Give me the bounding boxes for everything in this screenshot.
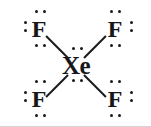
electron-dot-f-bottom-left-below-1 (35, 114, 38, 117)
electron-dot-f-top-left-left-2 (24, 29, 27, 32)
electron-dot-f-bottom-right-above-1 (110, 80, 113, 83)
lewis-structure-figure: F F Xe F F (0, 0, 151, 127)
electron-dot-f-bottom-left-above-1 (35, 80, 38, 83)
atom-label-fluorine-bottom-right: F (105, 87, 125, 111)
electron-dot-f-bottom-right-below-2 (118, 114, 121, 117)
atom-label-fluorine-bottom-left: F (29, 87, 49, 111)
electron-dot-f-top-left-above-2 (43, 10, 46, 13)
electron-dot-xe-center-below-1 (72, 79, 75, 82)
electron-dot-xe-center-above-1 (72, 47, 75, 50)
atom-label-fluorine-top-left: F (29, 17, 49, 41)
figure-bottom-edge (0, 126, 151, 127)
electron-dot-f-top-right-above-2 (118, 10, 121, 13)
electron-dot-xe-center-below-2 (80, 79, 83, 82)
electron-dot-f-bottom-right-above-2 (118, 80, 121, 83)
electron-dot-f-bottom-left-left-2 (24, 99, 27, 102)
electron-dot-f-top-right-right-2 (130, 29, 133, 32)
atom-label-fluorine-top-right: F (105, 17, 125, 41)
electron-dot-f-top-left-left-1 (24, 21, 27, 24)
electron-dot-f-bottom-left-left-1 (24, 91, 27, 94)
electron-dot-f-top-left-below-2 (43, 44, 46, 47)
electron-dot-f-top-right-below-1 (110, 44, 113, 47)
electron-dot-f-bottom-left-below-2 (43, 114, 46, 117)
electron-dot-xe-center-above-2 (80, 47, 83, 50)
electron-dot-f-bottom-right-right-2 (130, 99, 133, 102)
electron-dot-f-top-right-above-1 (110, 10, 113, 13)
electron-dot-f-top-left-below-1 (35, 44, 38, 47)
electron-dot-f-top-right-below-2 (118, 44, 121, 47)
electron-dot-f-top-right-right-1 (130, 21, 133, 24)
electron-dot-f-bottom-right-below-1 (110, 114, 113, 117)
electron-dot-f-bottom-right-right-1 (130, 91, 133, 94)
electron-dot-f-top-left-above-1 (35, 10, 38, 13)
electron-dot-f-bottom-left-above-2 (43, 80, 46, 83)
atom-label-xenon-center: Xe (56, 53, 96, 78)
